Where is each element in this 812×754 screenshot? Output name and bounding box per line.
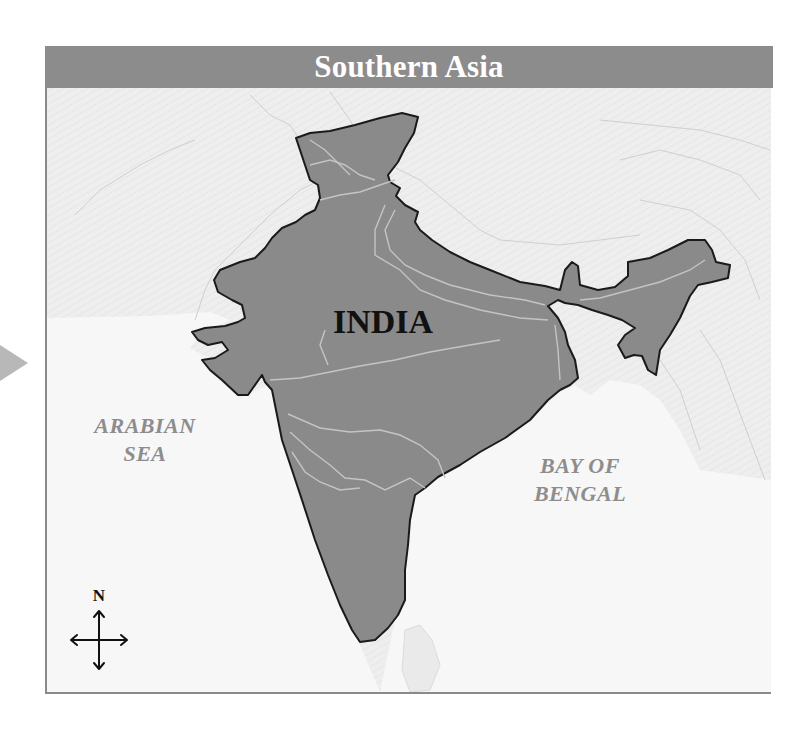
- sea-label-bengal-line2: BENGAL: [515, 480, 645, 508]
- play-triangle-icon: [0, 345, 28, 381]
- map-canvas: [47, 88, 771, 692]
- sea-label-bengal: BAY OF BENGAL: [515, 452, 645, 508]
- map-title: Southern Asia: [314, 49, 504, 85]
- sea-label-arabian-line1: ARABIAN: [80, 412, 210, 440]
- sea-label-arabian-line2: SEA: [80, 440, 210, 468]
- sea-label-bengal-line1: BAY OF: [515, 452, 645, 480]
- sea-label-arabian: ARABIAN SEA: [80, 412, 210, 468]
- title-bar: Southern Asia: [45, 46, 773, 88]
- compass-rose-icon: N: [68, 588, 130, 672]
- country-label-india: INDIA: [318, 303, 448, 341]
- compass-north-label: N: [68, 586, 130, 606]
